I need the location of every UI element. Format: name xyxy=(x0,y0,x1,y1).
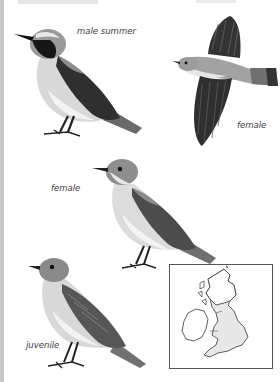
label-female-standing: female xyxy=(51,183,80,193)
page-edge xyxy=(0,0,4,382)
label-juvenile: juvenile xyxy=(26,340,59,350)
bird-juvenile-illustration xyxy=(28,254,150,374)
bird-male-summer-illustration xyxy=(10,18,145,143)
distribution-map xyxy=(169,264,273,369)
british-isles-map-icon xyxy=(170,265,272,368)
label-male-summer: male summer xyxy=(77,26,136,36)
header-text-faint xyxy=(18,0,98,4)
label-female-flight: female xyxy=(237,120,266,130)
header-text-faint-right xyxy=(196,0,236,3)
